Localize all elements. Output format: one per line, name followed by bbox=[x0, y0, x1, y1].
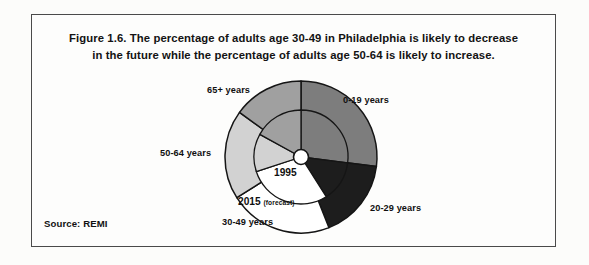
figure-title: Figure 1.6. The percentage of adults age… bbox=[41, 30, 546, 64]
figure-page: Figure 1.6. The percentage of adults age… bbox=[0, 0, 589, 265]
figure-title-line-1: Figure 1.6. The percentage of adults age… bbox=[41, 30, 546, 47]
source-note: Source: REMI bbox=[44, 218, 108, 229]
figure-title-line-2: in the future while the percentage of ad… bbox=[41, 47, 546, 64]
